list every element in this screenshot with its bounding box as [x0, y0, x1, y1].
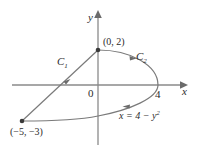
x-axis — [12, 81, 188, 89]
y-axis-arrowhead-icon — [94, 10, 102, 18]
equation-label: x = 4 − y2 — [119, 110, 160, 121]
point-marker-0-2 — [96, 48, 101, 53]
point-marker-neg5-neg3 — [20, 119, 25, 124]
curve-label-c1-subscript: 1 — [64, 62, 68, 70]
x-tick-label-4: 4 — [155, 89, 161, 100]
x-axis-label: x — [182, 86, 187, 97]
curve-label-c2-subscript: 2 — [143, 57, 147, 65]
equation-label-body: x = 4 − y — [119, 110, 156, 121]
math-figure: y x 0 4 (0, 2) (−5, −3) C1 C2 x = 4 − y2 — [0, 0, 199, 156]
curve-label-c2: C2 — [136, 51, 147, 65]
point-label-0-2: (0, 2) — [103, 37, 125, 47]
equation-label-exponent: 2 — [156, 109, 159, 116]
origin-label: 0 — [88, 88, 94, 99]
y-axis — [94, 10, 102, 145]
curve-label-c1: C1 — [57, 56, 68, 70]
c2-lower-direction-arrow-icon — [123, 105, 131, 109]
point-label-neg5-neg3: (−5, −3) — [10, 127, 43, 137]
c1-direction-arrow-icon — [64, 79, 71, 85]
y-axis-label: y — [88, 12, 93, 23]
